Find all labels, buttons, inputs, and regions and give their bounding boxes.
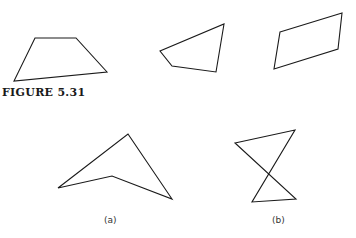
quadrilateral-3 — [274, 13, 342, 69]
quadrilateral-2 — [160, 24, 224, 72]
quadrilateral-1 — [14, 38, 107, 81]
self-intersecting-quadrilateral-b — [235, 130, 296, 202]
concave-quadrilateral-a — [58, 134, 172, 199]
sublabel-b: (b) — [272, 215, 285, 225]
sublabel-a: (a) — [104, 215, 117, 225]
figure-title: FIGURE 5.31 — [2, 86, 85, 99]
figure-canvas — [0, 0, 356, 238]
